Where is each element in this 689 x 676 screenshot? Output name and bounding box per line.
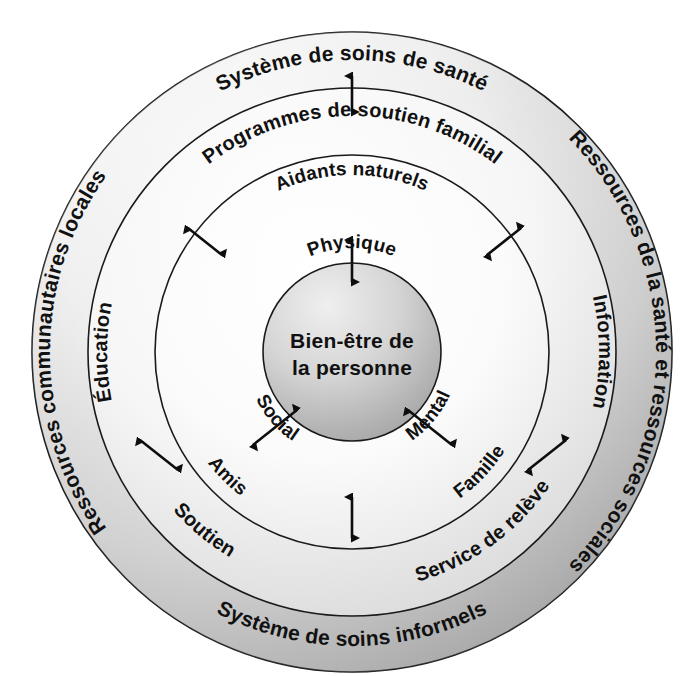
concentric-circles-canvas: Système de soins de santé Système de soi… bbox=[0, 0, 689, 676]
core-center-line-2: la personne bbox=[292, 356, 412, 379]
ecomap-diagram: Système de soins de santé Système de soi… bbox=[0, 0, 689, 676]
core-center-line-1: Bien-être de bbox=[290, 329, 414, 352]
